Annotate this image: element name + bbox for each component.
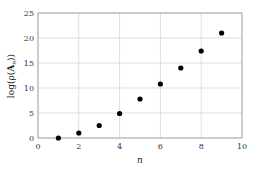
data-point: [137, 96, 142, 101]
plot-frame: [38, 13, 242, 138]
data-point: [97, 123, 102, 128]
x-tick-label: 8: [199, 142, 204, 151]
data-point: [199, 48, 204, 53]
x-tick-label: 6: [158, 142, 163, 151]
y-tick-labels: 0510152025: [24, 9, 34, 143]
scatter-chart: 0246810 0510152025 n log(ρ(An)): [0, 0, 258, 169]
y-tick-label: 0: [29, 134, 34, 143]
data-point: [219, 30, 224, 35]
y-tick-label: 5: [29, 109, 34, 118]
x-tick-label: 10: [237, 142, 247, 151]
y-axis-label: log(ρ(An)): [6, 54, 17, 98]
y-tick-label: 10: [24, 84, 34, 93]
data-point: [117, 111, 122, 116]
x-tick-label: 0: [35, 142, 40, 151]
data-point: [56, 135, 61, 140]
y-tick-label: 20: [24, 34, 34, 43]
data-point: [158, 81, 163, 86]
x-tick-labels: 0246810: [35, 142, 247, 151]
data-point: [76, 130, 81, 135]
data-point: [178, 65, 183, 70]
x-tick-label: 4: [117, 142, 122, 151]
x-axis-label: n: [137, 155, 143, 165]
grid-lines: [38, 13, 242, 138]
y-tick-label: 25: [24, 9, 34, 18]
y-tick-label: 15: [24, 59, 34, 68]
x-tick-label: 2: [76, 142, 81, 151]
data-points: [56, 30, 224, 140]
